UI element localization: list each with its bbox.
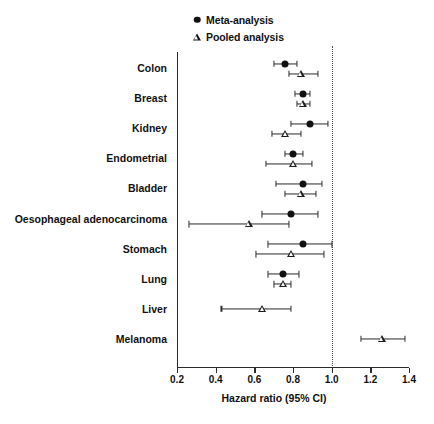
confidence-interval-line (189, 223, 290, 224)
x-tick-label: 1.2 (363, 374, 377, 385)
confidence-interval-cap (291, 120, 292, 127)
confidence-interval-cap (285, 191, 286, 198)
meta-analysis-point-icon (299, 180, 306, 187)
row-label: Breast (0, 92, 172, 104)
filled-circle-icon (190, 13, 204, 27)
confidence-interval-cap (289, 70, 290, 77)
x-tick (216, 368, 217, 373)
reference-line-hr-1 (332, 46, 333, 368)
confidence-interval-cap (267, 271, 268, 278)
meta-analysis-point-icon (307, 120, 314, 127)
pooled-analysis-point-icon (287, 250, 295, 257)
confidence-interval-cap (296, 100, 297, 107)
x-tick (177, 368, 178, 373)
confidence-interval-cap (300, 130, 301, 137)
confidence-interval-cap (273, 281, 274, 288)
confidence-interval-cap (296, 60, 297, 67)
row-label: Kidney (0, 122, 172, 134)
meta-analysis-point-icon (282, 60, 289, 67)
confidence-interval-cap (273, 60, 274, 67)
pooled-analysis-point-icon (289, 160, 297, 167)
row-label: Stomach (0, 243, 172, 255)
confidence-interval-line (221, 308, 291, 309)
confidence-interval-cap (318, 70, 319, 77)
confidence-interval-cap (318, 211, 319, 218)
confidence-interval-cap (323, 251, 324, 258)
x-tick-label: 0.8 (286, 374, 300, 385)
pooled-analysis-point-icon (297, 190, 305, 197)
confidence-interval-cap (310, 100, 311, 107)
x-tick-label: 0.4 (209, 374, 223, 385)
x-tick-label: 1.4 (402, 374, 416, 385)
pooled-analysis-point-icon (281, 130, 289, 137)
pooled-analysis-point-icon (279, 280, 287, 287)
x-tick-label: 0.6 (247, 374, 261, 385)
confidence-interval-cap (289, 221, 290, 228)
confidence-interval-cap (291, 306, 292, 313)
confidence-interval-cap (405, 336, 406, 343)
legend-item-2: Pooled analysis (190, 29, 284, 44)
meta-analysis-point-icon (290, 150, 297, 157)
confidence-interval-cap (310, 90, 311, 97)
confidence-interval-cap (298, 271, 299, 278)
pooled-analysis-point-icon (245, 220, 253, 227)
confidence-interval-cap (265, 161, 266, 168)
meta-analysis-point-icon (280, 271, 287, 278)
legend-item-label: Pooled analysis (206, 31, 284, 43)
confidence-interval-cap (327, 120, 328, 127)
marker-glyph (193, 33, 201, 40)
pooled-analysis-point-icon (299, 100, 307, 107)
confidence-interval-cap (221, 306, 222, 313)
meta-analysis-point-icon (299, 241, 306, 248)
confidence-interval-cap (275, 181, 276, 188)
meta-analysis-point-icon (288, 211, 295, 218)
x-axis-title: Hazard ratio (95% CI) (0, 392, 434, 404)
confidence-interval-cap (312, 161, 313, 168)
confidence-interval-cap (321, 181, 322, 188)
marker-glyph (194, 16, 201, 23)
legend-item-label: Meta-analysis (206, 14, 274, 26)
x-tick (254, 368, 255, 373)
row-label: Melanoma (0, 333, 172, 345)
row-label: Oesophageal adenocarcinoma (0, 213, 172, 225)
confidence-interval-cap (302, 151, 303, 158)
confidence-interval-cap (331, 241, 332, 248)
confidence-interval-cap (262, 211, 263, 218)
pooled-analysis-point-icon (378, 335, 386, 342)
forest-plot-figure: Meta-analysisPooled analysis 0.20.40.60.… (0, 0, 434, 424)
row-label: Colon (0, 62, 172, 74)
row-label: Lung (0, 273, 172, 285)
x-tick (332, 368, 333, 373)
y-axis-line (177, 52, 178, 368)
confidence-interval-cap (188, 221, 189, 228)
confidence-interval-cap (256, 251, 257, 258)
open-triangle-icon (190, 30, 204, 44)
pooled-analysis-point-icon (297, 69, 305, 76)
confidence-interval-cap (267, 241, 268, 248)
meta-analysis-point-icon (299, 90, 306, 97)
x-tick (370, 368, 371, 373)
x-tick (293, 368, 294, 373)
confidence-interval-cap (271, 130, 272, 137)
confidence-interval-cap (285, 151, 286, 158)
x-tick-label: 1.0 (325, 374, 339, 385)
x-tick-label: 0.2 (170, 374, 184, 385)
confidence-interval-cap (360, 336, 361, 343)
legend: Meta-analysisPooled analysis (190, 12, 284, 46)
x-tick (409, 368, 410, 373)
confidence-interval-cap (316, 191, 317, 198)
confidence-interval-cap (294, 90, 295, 97)
pooled-analysis-point-icon (258, 305, 266, 312)
row-label: Endometrial (0, 152, 172, 164)
confidence-interval-cap (291, 281, 292, 288)
legend-item-1: Meta-analysis (190, 12, 284, 27)
x-axis-title-label: Hazard ratio (95% CI) (221, 392, 326, 404)
row-label: Bladder (0, 182, 172, 194)
row-label: Liver (0, 303, 172, 315)
